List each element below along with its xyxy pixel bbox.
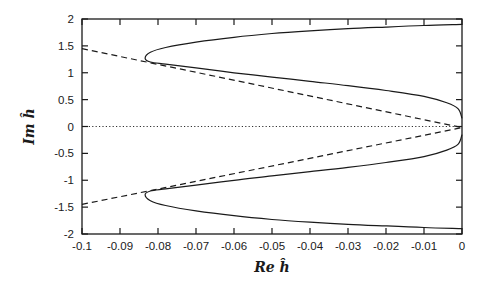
y-axis-title: Im ĥ (20, 108, 37, 145)
y-tick-label: 0.5 (58, 94, 74, 106)
lower-dashed-line (82, 128, 462, 205)
y-tick-label: 1 (68, 67, 74, 79)
x-tick-label: -0.1 (72, 240, 92, 252)
x-tick-label: -0.08 (145, 240, 171, 252)
plot-series (82, 24, 462, 228)
x-tick-label: -0.03 (335, 240, 361, 252)
x-axis-label: Re ĥ (253, 258, 290, 275)
y-axis-ticks: -2-1.5-1-0.500.511.52 (54, 13, 462, 240)
y-tick-label: 2 (68, 13, 74, 25)
y-axis-label: Im ĥ (20, 108, 37, 145)
y-tick-label: -0.5 (54, 147, 74, 159)
x-tick-label: -0.05 (259, 240, 285, 252)
y-tick-label: 0 (68, 121, 74, 133)
y-tick-label: 1.5 (58, 40, 74, 52)
chart-plot: Im ĥ Re ĥ -2-1.5-1-0.500.511.52 -0.1-0.0… (0, 0, 480, 289)
y-tick-label: -2 (64, 228, 74, 240)
x-tick-label: -0.09 (107, 240, 133, 252)
x-tick-label: -0.01 (411, 240, 437, 252)
x-tick-label: 0 (459, 240, 465, 252)
y-tick-label: -1 (64, 174, 74, 186)
x-axis-ticks: -0.1-0.09-0.08-0.07-0.06-0.05-0.04-0.03-… (72, 19, 465, 252)
upper-dashed-line (82, 49, 462, 128)
y-tick-label: -1.5 (54, 201, 74, 213)
x-axis-title: Re ĥ (253, 258, 290, 275)
x-tick-label: -0.04 (297, 240, 324, 252)
x-tick-label: -0.07 (183, 240, 209, 252)
x-tick-label: -0.02 (373, 240, 399, 252)
x-tick-label: -0.06 (221, 240, 247, 252)
